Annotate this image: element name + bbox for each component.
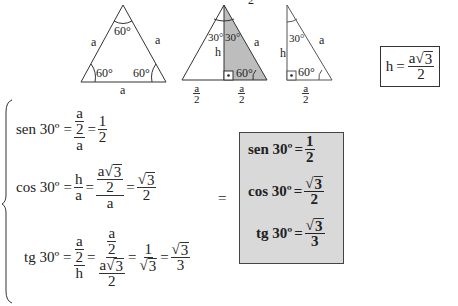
angle-30-left-label: 30° xyxy=(208,31,223,43)
angle-left-label: 60° xyxy=(96,67,113,79)
sen-f1: a2 a xyxy=(74,106,86,153)
right-half-base: a 2 xyxy=(302,83,310,104)
right-side-label: a xyxy=(319,34,324,46)
cos-lhs: cos 30º xyxy=(14,179,61,196)
sen-f2: 1 2 xyxy=(98,114,108,145)
tg-f4: √3 3 xyxy=(171,242,191,273)
cos-f1: h a xyxy=(74,172,84,203)
tg-derivation: tg 30º = a2 h = a2 a√32 = 1 √3 = √3 3 xyxy=(22,226,190,289)
side-left-label: a xyxy=(91,36,96,48)
side-right-label: a xyxy=(155,34,160,46)
summary-cos: cos 30º = √32 xyxy=(248,176,324,207)
h-formula-box: h = a√3 2 xyxy=(380,46,440,87)
half-base-left: a 2 xyxy=(193,83,201,104)
sen-lhs: sen 30º xyxy=(14,121,61,138)
cos-f3: √3 2 xyxy=(137,172,157,203)
cos-f2: a√32 a xyxy=(96,164,124,211)
cos-derivation: cos 30º = h a = a√32 a = √3 2 xyxy=(14,164,156,211)
tg-f3: 1 √3 xyxy=(138,242,158,273)
sen-derivation: sen 30º = a2 a = 1 2 xyxy=(14,106,107,153)
top-fragment-label: 2 xyxy=(248,0,254,6)
split-side-label: a xyxy=(254,36,259,48)
side-base-label: a xyxy=(120,84,125,96)
summary-tg: tg 30º = √33 xyxy=(256,218,325,249)
tg-f2: a2 a√32 xyxy=(98,226,126,289)
angle-top-label: 60° xyxy=(114,25,131,37)
h-eq: = xyxy=(393,58,407,75)
tg-lhs: tg 30º xyxy=(22,249,61,266)
right-angle-30-label: 30° xyxy=(289,32,304,44)
angle-60-label: 60° xyxy=(236,67,253,79)
half-base-right: a 2 xyxy=(238,83,246,104)
h-fraction: a√3 2 xyxy=(408,51,434,82)
middle-equals: = xyxy=(218,192,226,204)
summary-sen: sen 30º = 12 xyxy=(248,134,315,165)
h-lhs: h xyxy=(386,58,394,75)
tg-f1: a2 h xyxy=(74,234,86,281)
angle-right-label: 60° xyxy=(133,67,150,79)
split-height-label: h xyxy=(215,46,221,58)
right-height-label: h xyxy=(280,47,286,59)
right-angle-60-label: 60° xyxy=(298,66,315,78)
angle-30-right-label: 30° xyxy=(225,31,240,43)
